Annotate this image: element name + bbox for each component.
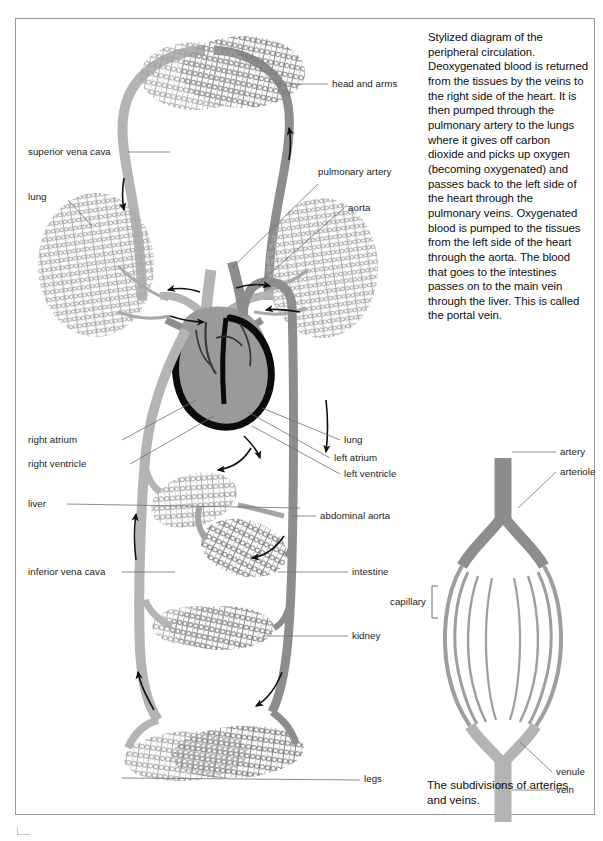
label-kidney: kidney [352,630,380,641]
page-corner-mark [17,827,30,835]
label-lung-left: lung [28,191,47,202]
label-legs: legs [364,773,382,784]
label-lung-right: lung [344,434,363,445]
label-arteriole: arteriole [560,466,595,477]
label-vein: vein [556,784,574,795]
label-inferior-vena-cava: inferior vena cava [28,566,105,577]
label-abdominal-aorta: abdominal aorta [320,510,390,521]
label-superior-vena-cava: superior vena cava [28,146,111,157]
figure-page: Stylized diagram of the peripheral circu… [0,0,603,841]
label-left-atrium: left atrium [334,452,377,463]
label-capillary: capillary [390,596,426,607]
label-liver: liver [28,498,46,509]
label-venule: venule [556,766,585,777]
label-right-ventricle: right ventricle [28,458,86,469]
label-intestine: intestine [352,566,389,577]
label-right-atrium: right atrium [28,434,77,445]
figure-caption: Stylized diagram of the peripheral circu… [428,30,588,323]
label-aorta: aorta [348,202,370,213]
label-artery: artery [560,446,585,457]
label-left-ventricle: left ventricle [344,468,396,479]
label-pulmonary-artery: pulmonary artery [318,166,392,177]
label-head-and-arms: head and arms [332,78,397,89]
